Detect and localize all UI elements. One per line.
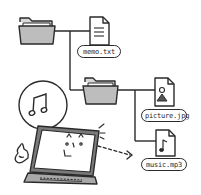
memo-label: memo.txt <box>77 45 121 58</box>
music-label: music.mp3 <box>141 158 187 171</box>
root-folder-icon <box>19 18 55 44</box>
laptop-character <box>24 126 99 184</box>
thumbs-up-icon <box>15 144 28 163</box>
text-file-icon <box>90 17 109 45</box>
picture-label: picture.jpg <box>141 109 187 122</box>
excitement-marks-icon <box>99 124 105 139</box>
audio-file-icon <box>156 130 175 156</box>
dashed-arrow-to-music <box>98 146 132 159</box>
image-file-icon <box>155 78 174 106</box>
sub-folder-icon <box>83 78 118 104</box>
